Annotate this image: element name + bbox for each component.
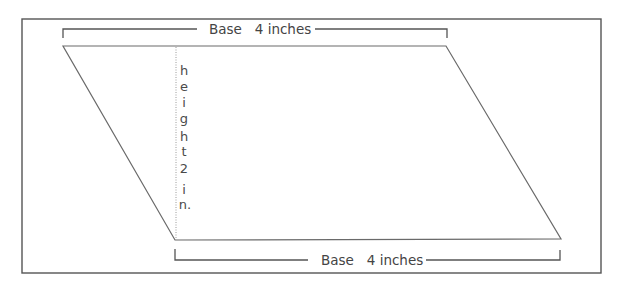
height-label: h e i g h t 2 i n. bbox=[179, 63, 191, 212]
height-unit-letter: n. bbox=[179, 197, 191, 212]
top-base-label: Base 4 inches bbox=[209, 21, 311, 37]
parallelogram-diagram: Base 4 inches h e i g h t 2 i n. Base 4 … bbox=[0, 0, 623, 288]
height-letter: i bbox=[182, 95, 186, 110]
height-letter: e bbox=[180, 79, 188, 94]
bottom-base-label: Base 4 inches bbox=[321, 252, 423, 268]
parallelogram bbox=[63, 46, 561, 240]
top-bracket-left bbox=[63, 29, 197, 38]
height-letter: h bbox=[180, 129, 188, 144]
height-letter: t bbox=[181, 144, 186, 159]
height-letter: h bbox=[180, 63, 188, 78]
top-base-dimension: Base 4 inches bbox=[63, 21, 447, 38]
diagram-frame bbox=[22, 19, 601, 273]
bottom-bracket-right bbox=[426, 250, 560, 260]
bottom-base-dimension: Base 4 inches bbox=[175, 249, 560, 268]
top-bracket-right bbox=[315, 29, 447, 38]
height-letter: g bbox=[180, 111, 188, 126]
height-value: 2 bbox=[180, 161, 188, 176]
height-unit-letter: i bbox=[182, 182, 186, 197]
bottom-bracket-left bbox=[175, 249, 308, 260]
